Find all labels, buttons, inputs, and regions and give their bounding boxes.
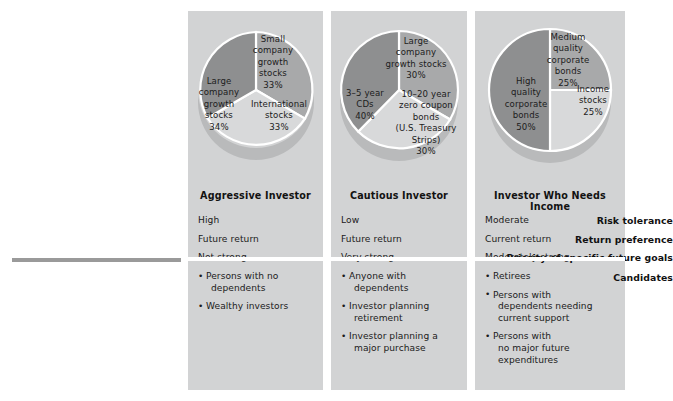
list-item-line: major purchase [349,343,465,355]
list-item-line: Persons with [493,290,621,302]
pie-chart-income: Medium quality corporate bonds 25% Incom… [482,14,618,166]
value-risk-tolerance-cautious: Low [341,215,359,225]
pie-svg-income [482,14,618,166]
list-item-line: Persons with no [206,271,320,283]
value-return-preference-cautious: Future return [341,234,402,244]
bullet-icon: • [198,301,203,313]
value-risk-tolerance-aggressive: High [198,215,219,225]
list-item-line: no major future [493,343,621,355]
column-title-aggressive: Aggressive Investor [188,190,323,201]
list-item-line: Investor planning a [349,331,465,343]
bullet-icon: • [341,271,346,283]
list-item-line: expenditures [493,355,621,367]
bullet-icon: • [341,331,346,343]
bullet-icon: • [198,271,203,283]
value-return-preference-aggressive: Future return [198,234,259,244]
list-item: • Wealthy investors [198,301,320,313]
list-item-line: dependents [349,283,465,295]
panel-divider-cautious [331,257,467,261]
value-return-preference-income: Current return [485,234,551,244]
bullet-icon: • [485,289,490,301]
list-item: • Persons with no dependents [198,271,320,294]
candidates-list-aggressive: • Persons with no dependents • Wealthy i… [198,271,320,320]
list-item: • Retirees [485,271,621,283]
column-title-cautious: Cautious Investor [331,190,467,201]
bullet-icon: • [485,271,490,283]
pie-chart-aggressive: Small company growth stocks 33% Internat… [196,14,316,166]
list-item-line: Retirees [493,271,621,283]
list-item-line: current support [493,313,621,325]
list-item-line: Anyone with [349,271,465,283]
panel-divider-income [475,257,625,261]
pie-chart-cautious: Large company growth stocks 30% 10–20 ye… [336,14,462,166]
list-item-line: Wealthy investors [206,301,320,313]
list-item-line: Persons with [493,331,621,343]
list-item: • Persons with no major future expenditu… [485,331,621,366]
list-item: • Investor planning a major purchase [341,331,465,354]
pie-svg-aggressive [196,14,316,166]
candidates-list-income: • Retirees • Persons with dependents nee… [485,271,621,373]
list-item: • Anyone with dependents [341,271,465,294]
bullet-icon: • [341,301,346,313]
list-item-line: dependents [206,283,320,295]
list-item-line: dependents needing [493,301,621,313]
figure-canvas: Small company growth stocks 33% Internat… [0,0,673,401]
left-label-divider [12,258,181,262]
panel-divider-aggressive [188,257,323,261]
list-item-line: Investor planning [349,301,465,313]
pie-slice-income-stocks [550,90,611,151]
list-item-line: retirement [349,313,465,325]
column-title-income: Investor Who Needs Income [475,190,625,212]
candidates-list-cautious: • Anyone with dependents • Investor plan… [341,271,465,362]
list-item: • Persons with dependents needing curren… [485,290,621,325]
bullet-icon: • [485,331,490,343]
value-risk-tolerance-income: Moderate [485,215,529,225]
pie-slice-medium-quality-corporate-bonds [550,29,611,90]
list-item: • Investor planning retirement [341,301,465,324]
pie-svg-cautious [336,14,462,166]
